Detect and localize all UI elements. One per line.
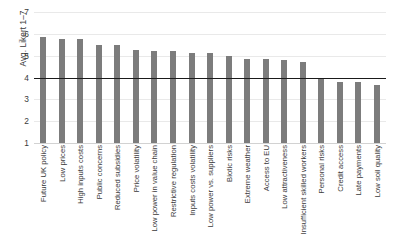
x-label-slot: Low power vs. suppliers: [201, 145, 220, 250]
x-label-slot: Insufficient skilled workers: [293, 145, 312, 250]
y-tick-label: 3: [24, 94, 29, 104]
x-label-slot: Price volatility: [127, 145, 146, 250]
x-tick-label: Low power vs. suppliers: [206, 145, 215, 227]
x-tick-label: Inputs costs volatility: [187, 145, 196, 216]
bar[interactable]: [77, 39, 83, 143]
bar[interactable]: [151, 51, 157, 143]
reference-line-marker: [34, 78, 386, 80]
bar[interactable]: [40, 37, 46, 143]
x-tick-label: Reduced subsidies: [113, 145, 122, 210]
bar[interactable]: [133, 50, 139, 143]
x-tick-label: Insufficient skilled workers: [298, 145, 307, 234]
x-tick-label: Restrictive regulation: [168, 145, 177, 217]
plot-area: 1234567: [34, 12, 386, 143]
x-label-slot: Reduced subsidies: [108, 145, 127, 250]
x-label-slot: Biotic risks: [219, 145, 238, 250]
x-label-slot: Late payments: [349, 145, 368, 250]
x-tick-label: Low soil quality: [372, 145, 381, 197]
bar[interactable]: [170, 51, 176, 143]
bar[interactable]: [374, 85, 380, 143]
x-tick-label: Low power in value chain: [150, 145, 159, 231]
x-tick-label: Extreme weather: [243, 145, 252, 203]
bar[interactable]: [59, 39, 65, 143]
x-tick-label: Credit access: [335, 145, 344, 192]
bar[interactable]: [337, 82, 343, 143]
y-tick-label: 1: [24, 138, 29, 148]
x-tick-label: Low attractiveness: [280, 145, 289, 209]
x-label-slot: Future UK policy: [34, 145, 53, 250]
x-tick-label: Access to EU: [261, 145, 270, 191]
bar[interactable]: [300, 62, 306, 143]
bar[interactable]: [355, 82, 361, 143]
x-label-slot: Inputs costs volatility: [182, 145, 201, 250]
bar[interactable]: [244, 59, 250, 143]
x-tick-label: Future UK policy: [39, 145, 48, 202]
y-tick-label: 6: [24, 29, 29, 39]
bar[interactable]: [263, 59, 269, 143]
x-label-slot: Restrictive regulation: [164, 145, 183, 250]
x-tick-label: Low prices: [57, 145, 66, 182]
y-tick-label: 4: [24, 73, 29, 83]
bar-chart: Avg. Likert 1–7 1234567 Future UK policy…: [0, 0, 400, 252]
x-tick-label: Biotic risks: [224, 145, 233, 182]
bar[interactable]: [96, 45, 102, 143]
x-label-slot: High inputs costs: [71, 145, 90, 250]
x-tick-label: Personal risks: [317, 145, 326, 193]
x-tick-label: Price volatility: [131, 145, 140, 192]
bar[interactable]: [189, 53, 195, 143]
x-label-slot: Low prices: [53, 145, 72, 250]
x-label-slot: Low soil quality: [368, 145, 387, 250]
x-label-slot: Personal risks: [312, 145, 331, 250]
y-tick-label: 7: [24, 7, 29, 17]
bar[interactable]: [226, 56, 232, 143]
x-label-slot: Low power in value chain: [145, 145, 164, 250]
x-tick-label: Public concerns: [94, 145, 103, 199]
x-label-slot: Extreme weather: [238, 145, 257, 250]
bar[interactable]: [114, 45, 120, 143]
x-label-slot: Credit access: [331, 145, 350, 250]
y-tick-label: 2: [24, 116, 29, 126]
x-tick-label: Late payments: [354, 145, 363, 195]
x-label-slot: Public concerns: [90, 145, 109, 250]
x-tick-label: High inputs costs: [76, 145, 85, 204]
bar[interactable]: [207, 53, 213, 143]
x-label-slot: Access to EU: [256, 145, 275, 250]
x-axis-labels: Future UK policyLow pricesHigh inputs co…: [34, 145, 386, 250]
x-label-slot: Low attractiveness: [275, 145, 294, 250]
y-tick-label: 5: [24, 51, 29, 61]
bar[interactable]: [318, 79, 324, 143]
bar[interactable]: [281, 60, 287, 143]
gridline-1: [34, 143, 386, 144]
